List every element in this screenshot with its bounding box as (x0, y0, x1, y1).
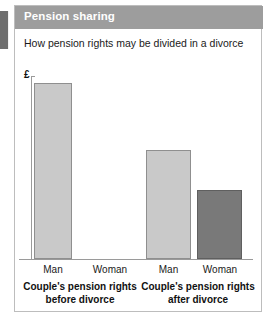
group-label-after-divorce-line2: after divorce (139, 293, 257, 306)
bar-group1-man (34, 83, 72, 259)
group-label-before-divorce: Couple's pension rights before divorce (21, 280, 139, 306)
group-label-before-divorce-line1: Couple's pension rights (21, 280, 139, 293)
edge-marker-tab (0, 11, 9, 49)
plot-area (15, 61, 263, 259)
category-label-group2-woman: Woman (195, 264, 245, 275)
group-label-after-divorce: Couple's pension rights after divorce (139, 280, 257, 306)
group-label-before-divorce-line2: before divorce (21, 293, 139, 306)
bar-chart: £ Man Woman Man Woman Couple's pension r… (15, 61, 263, 313)
screenshot-root: Pension sharing How pension rights may b… (0, 0, 275, 314)
bar-group2-woman (197, 190, 242, 259)
group-label-after-divorce-line1: Couple's pension rights (139, 280, 257, 293)
panel-subtitle: How pension rights may be divided in a d… (24, 37, 243, 49)
category-label-group1-man: Man (31, 264, 75, 275)
bar-group2-man (146, 150, 191, 259)
panel-header: Pension sharing (15, 6, 263, 29)
category-label-group2-man: Man (145, 264, 192, 275)
page-title: Pension sharing (24, 10, 115, 22)
pension-sharing-panel: Pension sharing How pension rights may b… (14, 5, 262, 312)
x-axis-baseline (19, 259, 253, 260)
category-label-group1-woman: Woman (85, 264, 135, 275)
